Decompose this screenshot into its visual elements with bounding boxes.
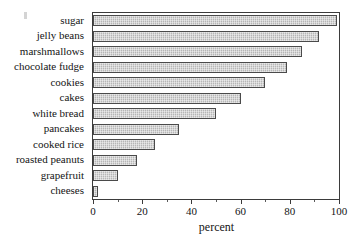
x-tick-minor xyxy=(314,200,315,202)
category-label: grapefruit xyxy=(0,170,84,181)
category-label: cheeses xyxy=(0,185,84,196)
bar xyxy=(93,93,241,104)
bar xyxy=(93,62,287,73)
x-tick-major xyxy=(241,200,242,204)
bar xyxy=(93,155,137,166)
x-tick-label: 40 xyxy=(176,205,206,217)
bar xyxy=(93,186,98,197)
x-tick-major xyxy=(93,200,94,204)
bar xyxy=(93,124,179,135)
category-label: white bread xyxy=(0,108,84,119)
x-tick-minor xyxy=(265,200,266,202)
bar xyxy=(93,77,265,88)
x-tick-minor xyxy=(118,200,119,202)
x-tick-major xyxy=(290,200,291,204)
x-tick-major xyxy=(339,200,340,204)
category-label: cakes xyxy=(0,92,84,103)
category-label: pancakes xyxy=(0,123,84,134)
category-label: chocolate fudge xyxy=(0,61,84,72)
category-label: cookies xyxy=(0,77,84,88)
bar xyxy=(93,46,302,57)
x-axis-title: percent xyxy=(92,220,341,234)
bar xyxy=(93,108,216,119)
bar xyxy=(93,139,155,150)
bars-layer xyxy=(93,13,339,199)
x-tick-label: 0 xyxy=(78,205,108,217)
x-axis: percent 020406080100 xyxy=(92,200,341,244)
x-tick-label: 80 xyxy=(275,205,305,217)
x-tick-major xyxy=(142,200,143,204)
x-tick-label: 20 xyxy=(127,205,157,217)
x-tick-minor xyxy=(167,200,168,202)
bar xyxy=(93,15,337,26)
x-tick-minor xyxy=(216,200,217,202)
x-tick-label: 100 xyxy=(324,205,354,217)
x-tick-major xyxy=(191,200,192,204)
category-axis-labels: sugarjelly beansmarshmallowschocolate fu… xyxy=(0,12,88,200)
category-label: roasted peanuts xyxy=(0,154,84,165)
bar xyxy=(93,31,319,42)
x-tick-label: 60 xyxy=(226,205,256,217)
category-label: sugar xyxy=(0,15,84,26)
bar-chart: sugarjelly beansmarshmallowschocolate fu… xyxy=(0,0,354,244)
category-label: cooked rice xyxy=(0,139,84,150)
category-label: marshmallows xyxy=(0,46,84,57)
category-label: jelly beans xyxy=(0,30,84,41)
bar xyxy=(93,170,118,181)
